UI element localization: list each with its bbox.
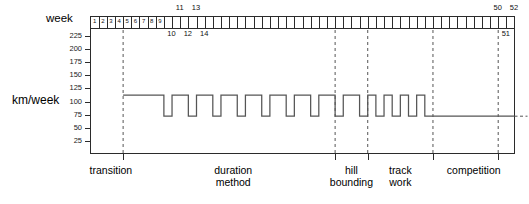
week-tick [139, 16, 140, 28]
week-tick [197, 16, 198, 28]
week-tick [303, 16, 304, 28]
week-tick [180, 16, 181, 28]
week-label: 2 [101, 18, 104, 25]
week-label: 5 [126, 18, 129, 25]
phase-boundary-tick [498, 154, 499, 160]
week-label: 50 [494, 4, 502, 12]
week-tick [221, 16, 222, 28]
y-tick-label: 225 [69, 32, 82, 40]
week-tick [498, 16, 499, 28]
week-tick [148, 16, 149, 28]
week-label: 11 [176, 4, 184, 12]
y-tick-mark [85, 36, 90, 37]
week-tick [237, 16, 238, 28]
phase-label: duration method [214, 164, 252, 188]
week-tick [449, 16, 450, 28]
week-tick [319, 16, 320, 28]
y-tick-mark [85, 88, 90, 89]
week-tick [392, 16, 393, 28]
plot-area [90, 16, 515, 154]
phase-boundary-tick [433, 154, 434, 160]
y-tick-mark [85, 141, 90, 142]
phase-label: competition [447, 164, 501, 176]
week-tick [164, 16, 165, 28]
week-tick [188, 16, 189, 28]
week-tick [107, 16, 108, 28]
week-tick [400, 16, 401, 28]
week-tick [254, 16, 255, 28]
phase-boundary-tick [123, 154, 124, 160]
week-label: 10 [167, 30, 175, 38]
y-tick-mark [85, 102, 90, 103]
week-tick [286, 16, 287, 28]
week-tick [457, 16, 458, 28]
week-tick [474, 16, 475, 28]
week-tick [99, 16, 100, 28]
week-label: 9 [158, 18, 161, 25]
y-tick-mark [85, 115, 90, 116]
phase-boundary-tick [368, 154, 369, 160]
week-tick [205, 16, 206, 28]
week-label: 14 [200, 30, 208, 38]
week-tick [172, 16, 173, 28]
week-tick [506, 16, 507, 28]
week-tick [270, 16, 271, 28]
week-label: 52 [510, 4, 518, 12]
y-tick-label: 175 [69, 58, 82, 66]
week-tick [417, 16, 418, 28]
y-tick-mark [85, 128, 90, 129]
y-tick-label: 25 [74, 137, 82, 145]
week-label: 1 [93, 18, 96, 25]
week-tick [311, 16, 312, 28]
y-tick-label: 150 [69, 71, 82, 79]
week-tick [115, 16, 116, 28]
week-tick [425, 16, 426, 28]
week-label: 6 [134, 18, 137, 25]
week-tick [466, 16, 467, 28]
week-label: 8 [150, 18, 153, 25]
week-tick [262, 16, 263, 28]
week-tick [368, 16, 369, 28]
week-tick [482, 16, 483, 28]
week-tick [294, 16, 295, 28]
phase-label: hill bounding [330, 164, 373, 188]
week-tick [335, 16, 336, 28]
week-tick [213, 16, 214, 28]
week-tick [156, 16, 157, 28]
phase-label: transition [90, 164, 133, 176]
y-tick-mark [85, 49, 90, 50]
phase-boundary-tick [335, 154, 336, 160]
week-tick [123, 16, 124, 28]
week-tick [441, 16, 442, 28]
week-tick [278, 16, 279, 28]
week-tick [360, 16, 361, 28]
week-label: 4 [117, 18, 120, 25]
week-tick [433, 16, 434, 28]
week-label: 7 [142, 18, 145, 25]
phase-label: track work [389, 164, 412, 188]
week-tick [131, 16, 132, 28]
week-tick [351, 16, 352, 28]
week-tick [327, 16, 328, 28]
week-label: 13 [192, 4, 200, 12]
week-label: 3 [109, 18, 112, 25]
week-label: 51 [502, 30, 510, 38]
tick-band-separator [90, 28, 515, 29]
week-tick [490, 16, 491, 28]
y-tick-label: 200 [69, 45, 82, 53]
y-axis-tick-labels: 255075100125150175200225 [52, 14, 84, 154]
week-tick [376, 16, 377, 28]
week-tick [384, 16, 385, 28]
week-tick [245, 16, 246, 28]
y-tick-label: 100 [69, 98, 82, 106]
chart-screenshot: week km/week 255075100125150175200225 12… [0, 0, 529, 204]
week-label: 12 [184, 30, 192, 38]
y-tick-label: 50 [74, 124, 82, 132]
week-tick [343, 16, 344, 28]
y-tick-label: 75 [74, 111, 82, 119]
week-tick [409, 16, 410, 28]
y-tick-mark [85, 75, 90, 76]
y-tick-label: 125 [69, 84, 82, 92]
y-tick-mark [85, 62, 90, 63]
week-tick [229, 16, 230, 28]
